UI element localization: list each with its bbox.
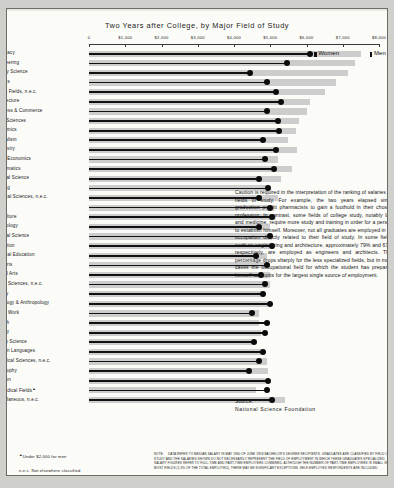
chart-row: Earth Sciences	[89, 116, 379, 126]
marker-women	[264, 320, 270, 326]
marker-women	[262, 156, 268, 162]
category-label: Biological Sciences, n.e.c.	[6, 358, 83, 363]
x-tick-mark	[125, 44, 126, 47]
bar-women	[89, 313, 252, 315]
bottom-note-text: DATA REFER TO MEDIAN SALARY IN MAY 1960 …	[154, 452, 388, 470]
category-label: Architecture	[6, 98, 83, 103]
chart-row: Premedical Fields▲	[89, 386, 379, 396]
category-label: Premedical Fields▲	[6, 387, 83, 394]
chart-row: Physics	[89, 78, 379, 88]
bar-women	[89, 341, 254, 343]
marker-women	[249, 310, 255, 316]
marker-women	[260, 349, 266, 355]
category-label: Physical Education	[6, 252, 83, 257]
marker-women	[247, 70, 253, 76]
bar-women	[89, 255, 256, 257]
marker-women	[271, 166, 277, 172]
chart-row: Social Sciences, n.e.c.	[89, 280, 379, 290]
x-tick-label: $3,000	[191, 35, 205, 40]
category-label: Military Science	[6, 69, 83, 74]
x-tick-label: $6,000	[299, 35, 313, 40]
caution-note: Caution is required in the interpretatio…	[235, 189, 388, 280]
category-label: Political Science	[6, 175, 83, 180]
marker-women	[262, 330, 268, 336]
marker-women	[246, 368, 252, 374]
x-tick-label: $7,000	[336, 35, 350, 40]
category-label: Law	[6, 204, 83, 209]
category-label: Agriculture	[6, 214, 83, 219]
category-label: Chemistry	[6, 146, 83, 151]
marker-women	[260, 291, 266, 297]
chart-row: Economics	[89, 126, 379, 136]
chart-row: Engineering	[89, 59, 379, 69]
category-label: English	[6, 320, 83, 325]
chart-row: Library Science	[89, 338, 379, 348]
x-tick-mark	[234, 44, 235, 47]
category-label: Biology	[6, 329, 83, 334]
category-label: Pharmacy	[6, 50, 83, 55]
bar-women	[89, 370, 249, 372]
chart-row: Chemistry	[89, 145, 379, 155]
x-tick-label: $8,000	[372, 35, 386, 40]
x-tick-mark	[270, 44, 271, 47]
category-label: Miscellaneous, n.e.c.	[6, 397, 83, 402]
category-label: Journalism	[6, 137, 83, 142]
page-title: Two Years after College, by Major Field …	[7, 21, 387, 30]
bar-women	[89, 303, 270, 305]
category-label: Philosophy	[6, 368, 83, 373]
category-label: Religion	[6, 377, 83, 382]
category-label: Psychology	[6, 223, 83, 228]
source-label: Source:	[235, 398, 388, 406]
chart-row: Pharmacy	[89, 49, 379, 59]
chart-row: Architecture	[89, 97, 379, 107]
bar-women	[89, 178, 259, 180]
marker-women	[273, 89, 279, 95]
x-tick-label: $1,000	[118, 35, 132, 40]
bar-women	[89, 139, 263, 141]
source-value: National Science Foundation	[235, 406, 388, 414]
marker-women	[273, 147, 279, 153]
chart-sheet: Two Years after College, by Major Field …	[6, 8, 388, 476]
category-label: Nursing	[6, 185, 83, 190]
chart-row: Social Work	[89, 309, 379, 319]
category-label: Business & Commerce	[6, 108, 83, 113]
bar-women	[89, 293, 263, 295]
chart-row: Philosophy	[89, 366, 379, 376]
marker-women	[264, 108, 270, 114]
x-tick-mark	[89, 44, 90, 47]
bar-women	[89, 197, 259, 199]
bar-women	[89, 332, 265, 334]
category-label: Social Work	[6, 310, 83, 315]
x-tick-mark	[162, 44, 163, 47]
marker-women	[264, 387, 270, 393]
marker-women	[275, 118, 281, 124]
bar-women	[89, 322, 267, 324]
bar-women	[89, 53, 310, 55]
bar-women	[89, 351, 263, 353]
category-label: Fine Arts	[6, 262, 83, 267]
category-label: Home Economics	[6, 156, 83, 161]
bar-women	[89, 63, 287, 65]
category-label: Mathematics	[6, 166, 83, 171]
chart-row: Journalism	[89, 136, 379, 146]
bar-women	[89, 361, 259, 363]
category-label: Engineering	[6, 60, 83, 65]
chart-row: Religion	[89, 376, 379, 386]
marker-women	[262, 281, 268, 287]
chart-row: English	[89, 318, 379, 328]
chart-row: Home Economics	[89, 155, 379, 165]
category-label: General Science	[6, 233, 83, 238]
bar-women	[89, 226, 259, 228]
marker-women	[276, 128, 282, 134]
bar-women	[89, 130, 279, 132]
chart-row: Military Science	[89, 68, 379, 78]
chart-row: Political Science	[89, 174, 379, 184]
source-block: Source: National Science Foundation	[235, 398, 388, 413]
chart-row: Health Fields, n.e.c.	[89, 87, 379, 97]
x-tick-mark	[379, 44, 380, 47]
category-label: Health Fields, n.e.c.	[6, 89, 83, 94]
marker-women	[307, 51, 313, 57]
x-tick-label: $4,000	[227, 35, 241, 40]
marker-women	[278, 99, 284, 105]
marker-women	[267, 301, 273, 307]
